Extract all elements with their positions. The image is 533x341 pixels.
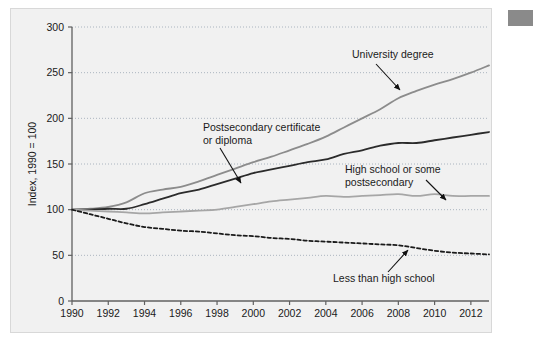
x-tick-label: 2006	[350, 307, 374, 319]
x-tick-label: 1992	[97, 307, 121, 319]
x-tick-label: 2002	[278, 307, 302, 319]
y-tick-label: 100	[46, 203, 64, 215]
annotation-line: High school or some	[345, 163, 441, 175]
y-tick-label: 250	[46, 66, 64, 78]
annotation-arrow-high-school-or-some-postsecondary	[426, 180, 446, 200]
annotation-label-university-degree: University degree	[352, 48, 434, 60]
x-tick-label: 2010	[423, 307, 447, 319]
line-chart: 050100150200250300 199019921994199619982…	[0, 0, 533, 341]
x-tick-label: 1998	[205, 307, 229, 319]
y-tick-label: 50	[52, 249, 64, 261]
series-line	[72, 210, 489, 255]
x-tick-label: 1990	[60, 307, 84, 319]
y-tick-label: 150	[46, 158, 64, 170]
y-axis-ticks: 050100150200250300	[46, 21, 72, 307]
annotation-label-less-than-high-school: Less than high school	[333, 272, 435, 284]
x-tick-label: 1996	[169, 307, 193, 319]
annotation-arrow-postsecondary-certificate	[220, 148, 241, 183]
data-series-group	[72, 65, 489, 254]
x-tick-label: 2008	[387, 307, 411, 319]
series-line	[72, 194, 489, 213]
annotation-label-high-school-or-some-postsecondary: High school or somepostsecondary	[345, 163, 441, 188]
chart-figure: 050100150200250300 199019921994199619982…	[0, 0, 533, 341]
annotation-line: or diploma	[203, 134, 252, 146]
x-tick-label: 1994	[133, 307, 157, 319]
x-axis-ticks: 1990199219941996199820002002200420062008…	[60, 301, 482, 319]
annotation-label-postsecondary-certificate: Postsecondary certificateor diploma	[203, 121, 320, 146]
y-tick-label: 200	[46, 112, 64, 124]
y-axis-title: Index, 1990 = 100	[26, 122, 38, 207]
annotation-line: University degree	[352, 48, 434, 60]
x-tick-label: 2000	[242, 307, 266, 319]
annotation-arrow-less-than-high-school	[388, 250, 408, 272]
x-tick-label: 2012	[459, 307, 483, 319]
annotations-group: University degreePostsecondary certifica…	[203, 48, 446, 284]
y-tick-label: 0	[58, 295, 64, 307]
x-tick-label: 2004	[314, 307, 338, 319]
annotation-arrow-university-degree	[376, 64, 400, 90]
annotation-line: Postsecondary certificate	[203, 121, 320, 133]
y-tick-label: 300	[46, 21, 64, 33]
annotation-line: Less than high school	[333, 272, 435, 284]
series-line	[72, 65, 489, 209]
annotation-line: postsecondary	[345, 176, 414, 188]
